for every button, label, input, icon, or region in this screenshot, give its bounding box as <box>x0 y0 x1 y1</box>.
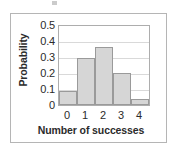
x-axis-title: Number of successes <box>23 124 159 136</box>
x-axis-ticks: 0 1 2 3 4 <box>58 109 150 123</box>
figure-root: 0.5 0.4 0.3 0.2 0.1 0 0 <box>0 0 178 152</box>
x-tick-label: 3 <box>112 109 130 121</box>
y-axis-title: Probability <box>17 23 29 97</box>
bar-1 <box>77 58 95 105</box>
y-tick-label: 0 <box>13 100 55 111</box>
x-tick-label: 2 <box>94 109 112 121</box>
plot-area <box>58 25 150 106</box>
bar-3 <box>113 73 131 105</box>
bar-2 <box>95 47 113 105</box>
gridline <box>59 42 149 43</box>
figure-frame: 0.5 0.4 0.3 0.2 0.1 0 0 <box>10 13 167 143</box>
scan-artifact <box>52 1 57 5</box>
x-tick-label: 0 <box>58 109 76 121</box>
bar-0 <box>59 91 77 105</box>
x-tick-label: 4 <box>130 109 148 121</box>
x-tick-label: 1 <box>76 109 94 121</box>
probability-histogram: 0.5 0.4 0.3 0.2 0.1 0 0 <box>11 14 168 144</box>
bar-4 <box>131 99 149 105</box>
